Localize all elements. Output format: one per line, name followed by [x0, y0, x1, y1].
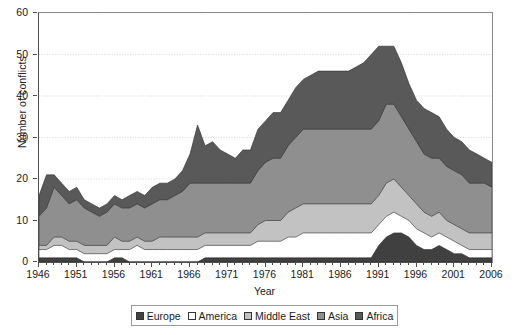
x-tick-mark [46, 262, 47, 265]
legend-label: Europe [147, 310, 181, 322]
x-tick-mark [355, 262, 356, 265]
x-tick-mark [106, 262, 107, 265]
x-tick-mark [234, 262, 235, 265]
x-tick-mark [370, 262, 371, 265]
y-tick-mark [33, 95, 37, 96]
x-tick-mark [476, 262, 477, 265]
legend-swatch-icon [355, 312, 363, 320]
x-tick-mark [181, 262, 182, 265]
legend-label: Africa [366, 310, 393, 322]
x-tick-mark [242, 262, 243, 265]
x-tick-mark [408, 262, 409, 265]
x-tick-mark [310, 262, 311, 265]
y-tick-mark [33, 137, 37, 138]
x-tick-mark [76, 262, 77, 267]
x-tick-mark [121, 262, 122, 265]
legend-swatch-icon [244, 312, 252, 320]
area-series-svg [39, 13, 492, 262]
x-tick-mark [280, 262, 281, 265]
legend-swatch-icon [317, 312, 325, 320]
x-tick-mark [272, 262, 273, 265]
x-tick-mark [83, 262, 84, 265]
x-tick-mark [287, 262, 288, 265]
x-tick-mark [249, 262, 250, 265]
x-tick-mark [317, 262, 318, 265]
legend-item-america[interactable]: America [188, 310, 238, 322]
x-tick-mark [68, 262, 69, 265]
x-tick-mark [348, 262, 349, 265]
x-tick-mark [61, 262, 62, 265]
x-tick-mark [257, 262, 258, 265]
x-tick-mark [227, 262, 228, 267]
x-tick-mark [363, 262, 364, 265]
x-axis-label: Year [36, 285, 493, 297]
x-tick-mark [295, 262, 296, 265]
y-tick-mark [33, 178, 37, 179]
x-tick-mark [189, 262, 190, 267]
x-tick-label: 2006 [468, 268, 514, 280]
y-tick-mark [33, 54, 37, 55]
x-tick-mark [378, 262, 379, 267]
x-tick-mark [453, 262, 454, 267]
x-tick-mark [265, 262, 266, 267]
legend-item-africa[interactable]: Africa [355, 310, 393, 322]
x-tick-mark [468, 262, 469, 265]
x-tick-mark [340, 262, 341, 267]
y-tick-label: 10 [0, 215, 28, 225]
x-tick-mark [53, 262, 54, 265]
legend-label: Middle East [255, 310, 310, 322]
y-tick-label: 60 [0, 7, 28, 17]
x-tick-mark [393, 262, 394, 265]
x-tick-mark [114, 262, 115, 267]
x-tick-mark [431, 262, 432, 265]
y-tick-mark [33, 261, 37, 262]
y-tick-label: 0 [0, 256, 28, 266]
x-tick-mark [166, 262, 167, 265]
legend-item-asia[interactable]: Asia [317, 310, 348, 322]
y-tick-label: 20 [0, 173, 28, 183]
y-tick-label: 50 [0, 49, 28, 59]
x-tick-mark [438, 262, 439, 265]
x-tick-mark [151, 262, 152, 267]
y-tick-mark [33, 220, 37, 221]
chart-legend: EuropeAmericaMiddle EastAsiaAfrica [131, 305, 398, 326]
legend-item-middle-east[interactable]: Middle East [244, 310, 310, 322]
x-tick-mark [423, 262, 424, 265]
x-tick-mark [129, 262, 130, 265]
legend-label: Asia [328, 310, 348, 322]
y-tick-label: 40 [0, 90, 28, 100]
x-tick-mark [400, 262, 401, 265]
x-tick-mark [212, 262, 213, 265]
x-tick-mark [461, 262, 462, 265]
x-tick-mark [325, 262, 326, 265]
x-tick-mark [204, 262, 205, 265]
stacked-area-chart: Number of conflicts 0102030405060 194619… [0, 0, 529, 335]
x-tick-mark [302, 262, 303, 267]
x-tick-mark [197, 262, 198, 265]
x-tick-mark [483, 262, 484, 265]
x-tick-mark [144, 262, 145, 265]
x-tick-mark [159, 262, 160, 265]
x-tick-mark [491, 262, 492, 267]
x-tick-mark [91, 262, 92, 265]
x-tick-mark [98, 262, 99, 265]
x-tick-mark [219, 262, 220, 265]
plot-area [38, 12, 493, 263]
legend-label: America [199, 310, 238, 322]
legend-swatch-icon [136, 312, 144, 320]
x-tick-mark [385, 262, 386, 265]
x-tick-mark [446, 262, 447, 265]
legend-swatch-icon [188, 312, 196, 320]
legend-item-europe[interactable]: Europe [136, 310, 181, 322]
y-tick-mark [33, 12, 37, 13]
x-tick-mark [136, 262, 137, 265]
y-tick-label: 30 [0, 132, 28, 142]
x-tick-mark [332, 262, 333, 265]
x-tick-mark [38, 262, 39, 267]
x-tick-mark [416, 262, 417, 267]
x-tick-mark [174, 262, 175, 265]
